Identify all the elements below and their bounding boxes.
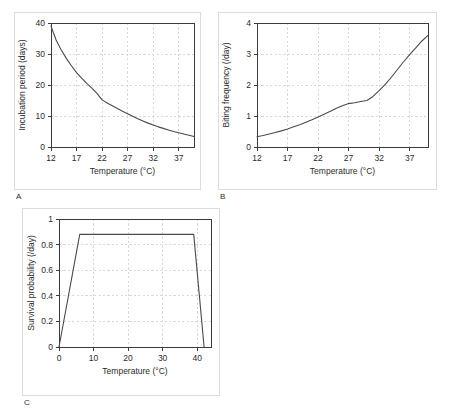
- chart-a-canvas: 121722273237010203040Temperature (°C)Inc…: [15, 13, 200, 189]
- y-tick-label: 0.4: [41, 291, 53, 301]
- y-tick-label: 0.8: [41, 240, 53, 250]
- y-tick-label: 0: [40, 142, 45, 152]
- x-tick-label: 17: [72, 153, 82, 163]
- chart-panel-b: 12172227323701234Temperature (°C)Biting …: [218, 12, 437, 190]
- x-tick-label: 0: [57, 353, 62, 363]
- figure-container: 121722273237010203040Temperature (°C)Inc…: [0, 0, 454, 412]
- x-tick-label: 22: [97, 153, 107, 163]
- chart-c-canvas: 01020304000.20.40.60.81Temperature (°C)S…: [23, 209, 219, 395]
- y-tick-label: 10: [36, 111, 46, 121]
- y-tick-label: 1: [246, 111, 251, 121]
- y-tick-label: 4: [246, 18, 251, 28]
- chart-b-canvas: 12172227323701234Temperature (°C)Biting …: [219, 13, 436, 189]
- data-curve: [51, 26, 194, 136]
- x-axis-title: Temperature (°C): [90, 166, 155, 176]
- x-tick-label: 27: [123, 153, 133, 163]
- y-tick-label: 0.2: [41, 316, 53, 326]
- y-tick-label: 0: [246, 142, 251, 152]
- y-axis-title: Incubation period (days): [17, 39, 27, 130]
- x-tick-label: 12: [46, 153, 56, 163]
- gridlines: [59, 219, 211, 347]
- chart-panel-c: 01020304000.20.40.60.81Temperature (°C)S…: [22, 208, 220, 396]
- x-tick-label: 32: [374, 153, 384, 163]
- plot-frame: [59, 219, 211, 347]
- axis-ticks: 121722273237010203040: [36, 18, 184, 163]
- chart-panel-a: 121722273237010203040Temperature (°C)Inc…: [14, 12, 201, 190]
- panel-label-b: B: [220, 193, 225, 201]
- gridlines: [257, 23, 428, 147]
- y-tick-label: 2: [246, 80, 251, 90]
- x-tick-label: 27: [344, 153, 354, 163]
- x-tick-label: 30: [158, 353, 168, 363]
- x-tick-label: 37: [405, 153, 415, 163]
- data-curve: [257, 35, 428, 136]
- y-tick-label: 20: [36, 80, 46, 90]
- panel-label-c: C: [24, 399, 30, 407]
- y-tick-label: 30: [36, 49, 46, 59]
- y-axis-title: Survival probability (/day): [26, 235, 36, 331]
- x-axis-title: Temperature (°C): [102, 366, 167, 376]
- x-tick-label: 10: [89, 353, 99, 363]
- y-tick-label: 0: [48, 342, 53, 352]
- x-tick-label: 22: [313, 153, 323, 163]
- x-tick-label: 37: [174, 153, 184, 163]
- gridlines: [51, 23, 194, 147]
- x-tick-label: 17: [283, 153, 293, 163]
- y-tick-label: 3: [246, 49, 251, 59]
- x-tick-label: 12: [252, 153, 262, 163]
- x-tick-label: 20: [123, 353, 133, 363]
- x-tick-label: 40: [192, 353, 202, 363]
- x-axis-title: Temperature (°C): [310, 166, 375, 176]
- panel-label-a: A: [16, 193, 21, 201]
- axis-ticks: 01020304000.20.40.60.81: [41, 214, 202, 363]
- y-tick-label: 0.6: [41, 265, 53, 275]
- y-tick-label: 1: [48, 214, 53, 224]
- y-tick-label: 40: [36, 18, 46, 28]
- axis-ticks: 12172227323701234: [246, 18, 414, 163]
- y-axis-title: Biting frequency (/day): [221, 42, 231, 127]
- x-tick-label: 32: [148, 153, 158, 163]
- data-curve: [59, 234, 204, 347]
